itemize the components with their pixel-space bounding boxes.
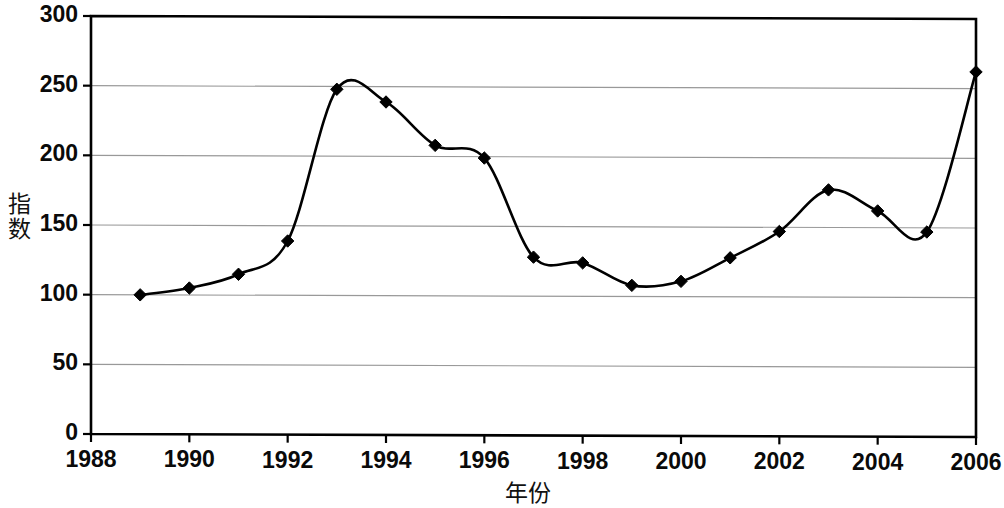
x-tick-label-2004: 2004 xyxy=(828,449,928,476)
data-point-2006 xyxy=(970,66,982,78)
data-point-1991 xyxy=(232,268,244,280)
gridlines xyxy=(91,86,976,368)
gridline-200 xyxy=(91,155,976,158)
data-point-1992 xyxy=(281,235,293,247)
axis-ticks xyxy=(83,16,976,445)
x-tick-label-1992: 1992 xyxy=(238,447,338,474)
x-tick-label-2006: 2006 xyxy=(926,449,1004,476)
data-point-1989 xyxy=(134,289,146,301)
data-series-line xyxy=(140,72,976,295)
data-point-2004 xyxy=(871,205,883,217)
y-tick-label-250: 250 xyxy=(0,71,78,98)
x-tick-label-1988: 1988 xyxy=(41,446,141,473)
index-line-chart: 指 数 年份 050100150200250300 19881990199219… xyxy=(0,0,1004,508)
y-tick-label-200: 200 xyxy=(0,140,78,167)
x-tick-label-1994: 1994 xyxy=(336,447,436,474)
data-point-2003 xyxy=(822,184,834,196)
gridline-100 xyxy=(91,295,976,298)
y-tick-label-150: 150 xyxy=(0,210,78,237)
data-point-1998 xyxy=(576,257,588,269)
chart-canvas xyxy=(0,0,1004,508)
data-point-1999 xyxy=(626,279,638,291)
data-point-2000 xyxy=(675,275,687,287)
gridline-50 xyxy=(91,364,976,367)
data-point-1990 xyxy=(183,282,195,294)
data-point-2001 xyxy=(724,252,736,264)
x-tick-label-1990: 1990 xyxy=(139,446,239,473)
gridline-150 xyxy=(91,225,976,228)
y-tick-label-50: 50 xyxy=(0,349,78,376)
x-tick-label-1996: 1996 xyxy=(434,447,534,474)
x-tick-label-1998: 1998 xyxy=(533,448,633,475)
gridline-250 xyxy=(91,86,976,89)
y-tick-label-100: 100 xyxy=(0,280,78,307)
x-axis-title: 年份 xyxy=(468,474,588,508)
x-tick-label-2000: 2000 xyxy=(631,448,731,475)
y-tick-label-300: 300 xyxy=(0,1,78,28)
y-tick-label-0: 0 xyxy=(0,419,78,446)
x-tick-label-2002: 2002 xyxy=(729,448,829,475)
